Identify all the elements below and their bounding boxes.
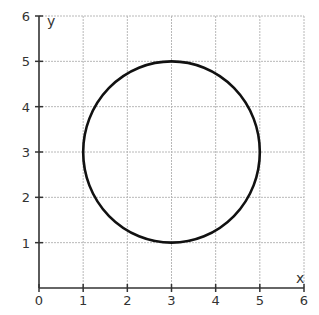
x-tick-label: 2: [123, 293, 131, 308]
grid-lines: [39, 16, 304, 288]
circle-graph: 0123456123456 x y: [0, 0, 319, 315]
y-tick-label: 3: [22, 145, 30, 160]
y-tick-label: 2: [22, 190, 30, 205]
y-axis-label: y: [47, 13, 55, 29]
x-tick-label: 6: [300, 293, 308, 308]
y-tick-label: 5: [22, 54, 30, 69]
x-tick-label: 4: [212, 293, 220, 308]
x-tick-label: 0: [35, 293, 43, 308]
tick-labels: 0123456123456: [22, 9, 308, 308]
x-tick-label: 1: [79, 293, 87, 308]
y-tick-label: 4: [22, 100, 30, 115]
y-tick-label: 1: [22, 236, 30, 251]
x-axis-label: x: [296, 270, 304, 286]
x-tick-label: 5: [256, 293, 264, 308]
y-tick-label: 6: [22, 9, 30, 24]
x-tick-label: 3: [167, 293, 175, 308]
tick-marks: [35, 16, 304, 292]
